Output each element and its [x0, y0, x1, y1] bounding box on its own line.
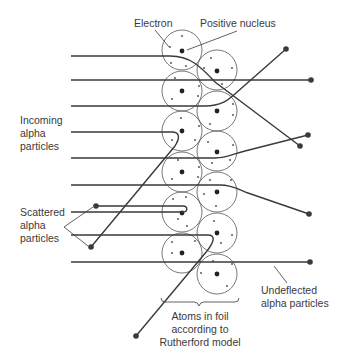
label-atoms-3: Rutherford model: [159, 336, 240, 348]
trajectory-scattered: [71, 132, 178, 247]
atom: [197, 172, 237, 212]
pointer-electron: [155, 30, 169, 47]
pointer-undeflected: [274, 266, 287, 283]
label-scattered-1: Scattered: [20, 206, 65, 218]
label-incoming-1: Incoming: [20, 114, 63, 126]
label-positive-nucleus: Positive nucleus: [200, 17, 276, 29]
atom: [162, 111, 202, 151]
brace-atoms: [161, 298, 239, 306]
atom: [197, 131, 237, 171]
trajectory-deflected: [71, 49, 286, 106]
rutherford-diagram: Electron Positive nucleus Incoming alpha…: [0, 0, 341, 355]
label-incoming-2: alpha: [20, 127, 46, 139]
label-undeflected-1: Undeflected: [261, 284, 317, 296]
label-scattered-3: particles: [20, 232, 59, 244]
atom: [197, 254, 237, 294]
pointer-nucleus: [187, 31, 237, 50]
label-atoms-1: Atoms in foil: [171, 310, 228, 322]
pointer-scattered: [64, 207, 93, 246]
trajectory-deflected: [71, 135, 308, 158]
atoms-group: [162, 30, 237, 294]
atom: [162, 233, 202, 273]
atom: [197, 213, 237, 253]
atom: [162, 71, 202, 111]
label-atoms-2: according to: [171, 323, 228, 335]
labels-group: Electron Positive nucleus Incoming alpha…: [20, 17, 329, 348]
label-undeflected-2: alpha particles: [261, 297, 329, 309]
label-incoming-3: particles: [20, 140, 59, 152]
trajectory-deflected: [71, 185, 309, 214]
label-scattered-2: alpha: [20, 219, 46, 231]
label-electron: Electron: [134, 17, 173, 29]
trajectory-scattered: [71, 206, 187, 212]
nucleus-dot: [180, 49, 185, 54]
